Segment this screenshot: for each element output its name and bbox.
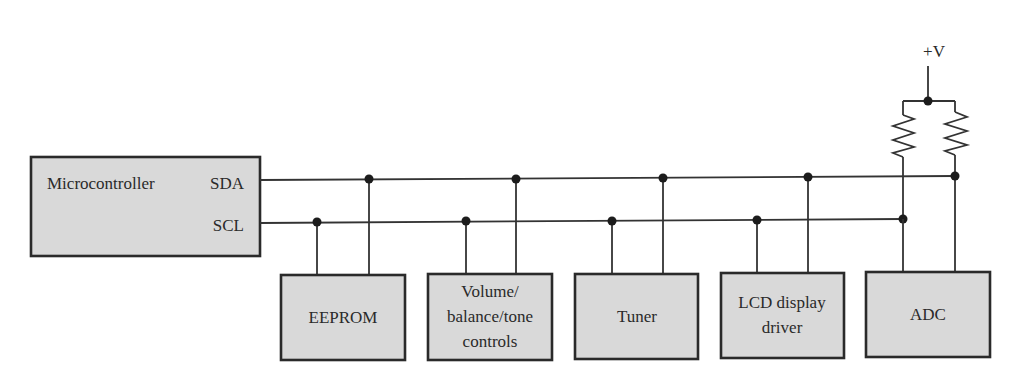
microcontroller-label: Microcontroller bbox=[47, 174, 155, 193]
device-lcd-label-line2: driver bbox=[762, 318, 803, 337]
device-volume-label-line1: Volume/ bbox=[461, 282, 519, 301]
supply-junction bbox=[924, 97, 933, 106]
device-lcd-label-line1: LCD display bbox=[738, 293, 826, 312]
supply-label: +V bbox=[923, 42, 946, 61]
pullup-resistor-scl bbox=[893, 101, 914, 220]
device-eeprom-label: EEPROM bbox=[309, 308, 378, 327]
sda-bus-line bbox=[260, 176, 955, 180]
i2c-diagram: +V Microcontroller SDA SCL EEPROM bbox=[0, 0, 1023, 384]
sda-pullup-junction bbox=[951, 172, 960, 181]
sda-pin-label: SDA bbox=[210, 174, 245, 193]
device-eeprom: EEPROM bbox=[281, 175, 405, 361]
pullup-resistor-sda bbox=[945, 101, 967, 272]
device-volume-label-line2: balance/tone bbox=[447, 307, 533, 326]
device-tuner-label: Tuner bbox=[617, 307, 657, 326]
device-adc-label: ADC bbox=[910, 305, 946, 324]
scl-bus-line bbox=[260, 219, 903, 223]
device-lcd-driver: LCD display driver bbox=[721, 173, 844, 359]
scl-pin-label: SCL bbox=[213, 216, 244, 235]
microcontroller-block: Microcontroller SDA SCL bbox=[31, 157, 260, 256]
device-volume-controls: Volume/ balance/tone controls bbox=[428, 175, 552, 361]
device-volume-label-line3: controls bbox=[463, 332, 518, 351]
device-tuner: Tuner bbox=[575, 174, 698, 360]
device-adc: ADC bbox=[866, 219, 990, 357]
